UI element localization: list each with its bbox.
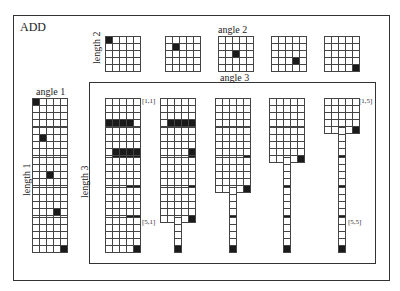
empty-cell <box>40 239 46 245</box>
empty-cell <box>300 58 306 64</box>
empty-cell <box>40 218 46 224</box>
empty-cell <box>244 106 250 112</box>
length1-label: length 1 <box>22 164 32 197</box>
empty-cell <box>175 202 181 208</box>
empty-cell <box>113 58 119 64</box>
filled-cell <box>47 172 53 178</box>
empty-cell <box>47 202 53 208</box>
empty-cell <box>237 135 243 141</box>
empty-cell <box>106 218 112 224</box>
filled-cell <box>61 246 67 252</box>
empty-cell <box>134 58 140 64</box>
empty-cell <box>286 51 292 57</box>
empty-cell <box>40 149 46 155</box>
angle2-label: angle 2 <box>218 25 247 35</box>
empty-cell <box>40 99 46 105</box>
empty-cell <box>106 246 112 252</box>
empty-cell <box>189 179 195 185</box>
empty-cell <box>54 158 60 164</box>
empty-cell <box>346 99 352 105</box>
angle3-label: angle 3 <box>220 73 249 83</box>
empty-cell <box>134 128 140 134</box>
empty-cell <box>216 179 222 185</box>
empty-cell <box>284 239 290 245</box>
empty-cell <box>300 65 306 71</box>
empty-cell <box>325 113 331 119</box>
diagram-title: ADD <box>20 20 46 35</box>
empty-cell <box>216 106 222 112</box>
matrix-cell-5-3 <box>229 217 237 253</box>
empty-cell <box>300 44 306 50</box>
empty-cell <box>120 142 126 148</box>
empty-cell <box>106 165 112 171</box>
empty-cell <box>106 135 112 141</box>
empty-cell <box>106 202 112 208</box>
empty-cell <box>168 165 174 171</box>
empty-cell <box>226 37 232 43</box>
empty-cell <box>187 44 193 50</box>
empty-cell <box>175 172 181 178</box>
empty-cell <box>161 179 167 185</box>
empty-cell <box>161 149 167 155</box>
empty-cell <box>54 179 60 185</box>
empty-cell <box>175 209 181 215</box>
empty-cell <box>339 239 345 245</box>
empty-cell <box>168 106 174 112</box>
empty-cell <box>339 165 345 171</box>
empty-cell <box>106 51 112 57</box>
empty-cell <box>244 113 250 119</box>
empty-cell <box>33 128 39 134</box>
empty-cell <box>284 188 290 194</box>
empty-cell <box>166 65 172 71</box>
empty-cell <box>300 51 306 57</box>
empty-cell <box>113 51 119 57</box>
empty-cell <box>223 128 229 134</box>
empty-cell <box>291 128 297 134</box>
empty-cell <box>33 209 39 215</box>
empty-cell <box>120 37 126 43</box>
empty-cell <box>346 58 352 64</box>
empty-cell <box>175 149 181 155</box>
empty-cell <box>113 225 119 231</box>
empty-cell <box>182 99 188 105</box>
empty-cell <box>161 99 167 105</box>
empty-cell <box>54 246 60 252</box>
empty-cell <box>134 37 140 43</box>
empty-cell <box>339 202 345 208</box>
empty-cell <box>244 135 250 141</box>
empty-cell <box>134 172 140 178</box>
empty-cell <box>270 128 276 134</box>
empty-cell <box>194 44 200 50</box>
empty-cell <box>33 172 39 178</box>
tag-5-1: [5,1] <box>142 219 155 226</box>
empty-cell <box>216 113 222 119</box>
empty-cell <box>230 149 236 155</box>
empty-cell <box>106 172 112 178</box>
empty-cell <box>113 128 119 134</box>
empty-cell <box>332 120 338 126</box>
empty-cell <box>106 106 112 112</box>
empty-cell <box>106 239 112 245</box>
empty-cell <box>127 195 133 201</box>
empty-cell <box>61 188 67 194</box>
empty-cell <box>47 218 53 224</box>
empty-cell <box>240 51 246 57</box>
empty-cell <box>247 65 253 71</box>
empty-cell <box>113 135 119 141</box>
empty-cell <box>237 99 243 105</box>
empty-cell <box>353 113 359 119</box>
empty-cell <box>106 113 112 119</box>
empty-cell <box>120 165 126 171</box>
empty-cell <box>134 239 140 245</box>
empty-cell <box>54 128 60 134</box>
empty-cell <box>33 239 39 245</box>
empty-cell <box>120 172 126 178</box>
filled-cell <box>244 186 250 192</box>
empty-cell <box>134 113 140 119</box>
empty-cell <box>244 128 250 134</box>
empty-cell <box>113 188 119 194</box>
filled-cell <box>233 51 239 57</box>
empty-cell <box>325 106 331 112</box>
empty-cell <box>54 225 60 231</box>
empty-cell <box>226 65 232 71</box>
